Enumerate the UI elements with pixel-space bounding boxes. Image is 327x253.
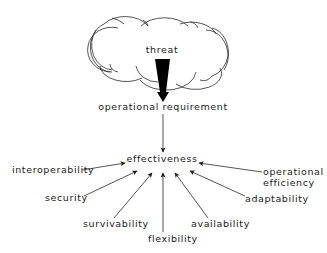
diagram-graphics xyxy=(0,0,327,253)
interoperability-label: interoperability xyxy=(12,165,94,175)
security-label: security xyxy=(45,193,88,203)
operational-efficiency-label-line2: efficiency xyxy=(263,178,315,188)
operational-efficiency-label-line1: operational xyxy=(263,167,324,177)
operational-efficiency-arrow xyxy=(199,163,262,172)
operational-requirement-label: operational requirement xyxy=(98,102,228,112)
survivability-arrow xyxy=(114,173,152,218)
availability-label: availability xyxy=(191,219,250,229)
adaptability-arrow xyxy=(190,171,245,196)
threat-label: threat xyxy=(146,45,178,55)
survivability-label: survivability xyxy=(83,219,149,229)
availability-arrow xyxy=(175,173,208,218)
flexibility-label: flexibility xyxy=(148,234,198,244)
diagram-canvas: threat operational requirement effective… xyxy=(0,0,327,253)
effectiveness-label: effectiveness xyxy=(127,154,198,164)
threat-bold-arrow xyxy=(155,59,170,102)
adaptability-label: adaptability xyxy=(245,194,309,204)
